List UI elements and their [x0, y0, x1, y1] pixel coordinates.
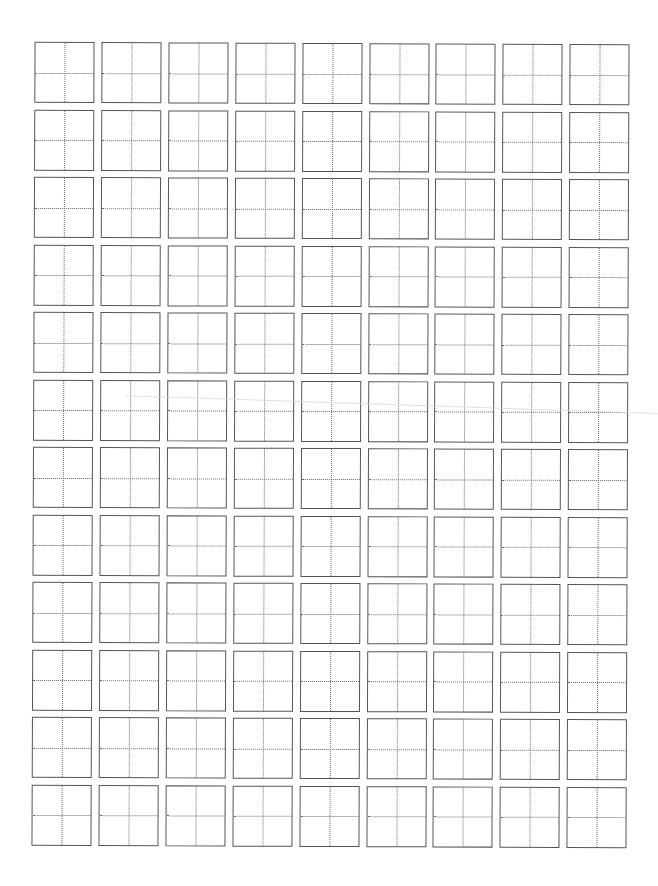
horizontal-guide-line: [101, 545, 159, 546]
horizontal-guide-line: [368, 614, 426, 615]
practice-cell: [234, 380, 294, 441]
practice-cell: [232, 718, 292, 779]
practice-cell: [167, 245, 227, 306]
practice-cell: [234, 245, 294, 306]
practice-cell: [366, 651, 426, 712]
practice-cell: [33, 379, 93, 440]
practice-cell: [567, 786, 627, 847]
practice-cell: [166, 717, 226, 778]
practice-cell: [569, 44, 629, 105]
practice-sheet: [0, 0, 658, 886]
practice-cell: [99, 650, 159, 711]
practice-cell: [434, 583, 494, 644]
practice-cell: [34, 109, 94, 170]
practice-cell: [101, 177, 161, 238]
horizontal-guide-line: [437, 74, 495, 75]
practice-cell: [166, 650, 226, 711]
practice-cell: [300, 515, 360, 576]
practice-cell: [502, 246, 562, 307]
horizontal-guide-line: [234, 748, 292, 749]
horizontal-guide-line: [35, 72, 93, 73]
horizontal-guide-line: [169, 140, 227, 141]
practice-cell: [501, 449, 561, 510]
horizontal-guide-line: [100, 680, 158, 681]
horizontal-guide-line: [436, 209, 494, 210]
horizontal-guide-line: [369, 276, 427, 277]
practice-cell: [500, 786, 560, 847]
practice-cell: [433, 651, 493, 712]
practice-cell: [299, 785, 359, 846]
horizontal-guide-line: [34, 342, 92, 343]
practice-cell: [34, 42, 94, 103]
horizontal-guide-line: [367, 749, 425, 750]
horizontal-guide-line: [236, 208, 294, 209]
practice-cell: [434, 381, 494, 442]
practice-cell: [300, 448, 360, 509]
practice-cell: [32, 582, 92, 643]
practice-cell: [501, 584, 561, 645]
horizontal-guide-line: [370, 141, 428, 142]
practice-cell: [568, 314, 628, 375]
horizontal-guide-line: [570, 209, 628, 210]
horizontal-guide-line: [435, 614, 493, 615]
horizontal-guide-line: [234, 681, 292, 682]
horizontal-guide-line: [168, 410, 226, 411]
practice-cell: [98, 785, 158, 846]
practice-cell: [233, 650, 293, 711]
practice-cell: [233, 515, 293, 576]
practice-cell: [34, 244, 94, 305]
horizontal-guide-line: [502, 547, 560, 548]
practice-cell: [435, 246, 495, 307]
practice-cell: [301, 313, 361, 374]
horizontal-guide-line: [302, 343, 360, 344]
practice-cell: [567, 651, 627, 712]
practice-cell: [501, 516, 561, 577]
practice-cell: [567, 719, 627, 780]
horizontal-guide-line: [434, 681, 492, 682]
horizontal-guide-line: [502, 614, 560, 615]
practice-cell: [369, 43, 429, 104]
practice-cell: [235, 43, 295, 104]
horizontal-guide-line: [370, 74, 428, 75]
practice-cell: [99, 582, 159, 643]
practice-cell: [33, 447, 93, 508]
practice-cell: [502, 314, 562, 375]
practice-cell: [166, 515, 226, 576]
horizontal-guide-line: [34, 477, 92, 478]
horizontal-guide-line: [166, 815, 224, 816]
horizontal-guide-line: [503, 209, 561, 210]
horizontal-guide-line: [34, 545, 92, 546]
practice-cell: [435, 178, 495, 239]
practice-cell: [235, 110, 295, 171]
practice-cell: [302, 43, 362, 104]
horizontal-guide-line: [569, 614, 627, 615]
practice-cell: [32, 514, 92, 575]
practice-cell: [368, 381, 428, 442]
practice-cell: [569, 246, 629, 307]
horizontal-guide-line: [504, 74, 562, 75]
horizontal-guide-line: [436, 276, 494, 277]
horizontal-guide-line: [99, 815, 157, 816]
horizontal-guide-line: [368, 479, 426, 480]
horizontal-guide-line: [570, 142, 628, 143]
practice-cell: [32, 717, 92, 778]
practice-cell: [300, 583, 360, 644]
horizontal-guide-line: [503, 142, 561, 143]
practice-cell: [368, 246, 428, 307]
practice-cell: [100, 312, 160, 373]
practice-cell: [233, 583, 293, 644]
practice-cell: [301, 178, 361, 239]
horizontal-guide-line: [501, 749, 559, 750]
horizontal-guide-line: [302, 276, 360, 277]
horizontal-guide-line: [236, 73, 294, 74]
horizontal-guide-line: [235, 276, 293, 277]
practice-cell: [33, 312, 93, 373]
horizontal-guide-line: [301, 478, 359, 479]
horizontal-guide-line: [35, 140, 93, 141]
horizontal-guide-line: [502, 412, 560, 413]
horizontal-guide-line: [100, 748, 158, 749]
practice-cell: [99, 515, 159, 576]
practice-cell: [501, 381, 561, 442]
practice-cell: [435, 313, 495, 374]
practice-cell: [233, 448, 293, 509]
